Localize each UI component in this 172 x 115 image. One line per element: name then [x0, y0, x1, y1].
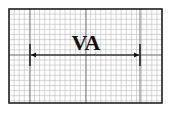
interval-label: VA: [72, 30, 101, 55]
arrowhead-left-icon: [31, 53, 36, 58]
major-grid-lines: [9, 9, 162, 103]
va-interval-diagram: VA: [0, 0, 172, 115]
